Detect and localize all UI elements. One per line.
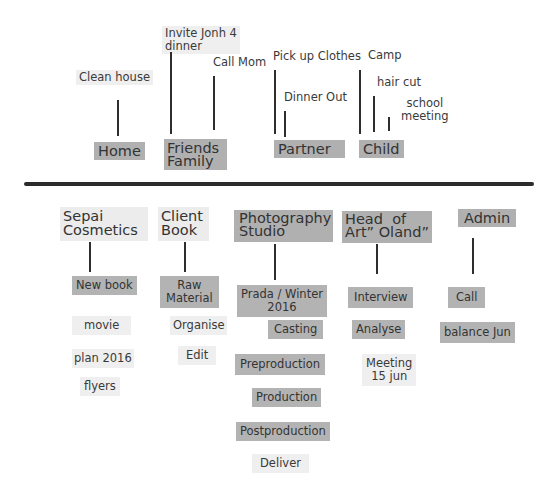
task-casting[interactable]: Casting — [268, 320, 323, 339]
task-call-mom[interactable]: Call Mom — [210, 55, 269, 70]
task-deliver[interactable]: Deliver — [252, 454, 309, 473]
task-movie[interactable]: movie — [72, 316, 131, 335]
connector-line — [373, 96, 375, 132]
task-pick-up-clothes[interactable]: Pick up Clothes — [270, 49, 364, 64]
connector-line — [284, 111, 286, 137]
category-partner[interactable]: Partner — [274, 140, 345, 158]
task-dinner-out[interactable]: Dinner Out — [281, 90, 350, 105]
task-hair-cut[interactable]: hair cut — [374, 75, 424, 90]
connector-line — [170, 52, 172, 134]
connector-line — [472, 238, 474, 274]
task-flyers[interactable]: flyers — [80, 377, 120, 396]
task-invite-jonh[interactable]: Invite Jonh 4 dinner — [162, 26, 240, 54]
connector-line — [213, 76, 215, 130]
category-home[interactable]: Home — [94, 142, 145, 160]
category-admin[interactable]: Admin — [458, 209, 516, 227]
task-preproduction[interactable]: Preproduction — [235, 354, 325, 375]
connector-line — [376, 244, 378, 274]
task-production[interactable]: Production — [252, 388, 321, 407]
section-divider — [24, 182, 534, 186]
connector-line — [117, 100, 119, 136]
task-new-book[interactable]: New book — [72, 276, 137, 295]
category-child[interactable]: Child — [359, 140, 404, 158]
category-head-of-art[interactable]: Head of Art” Oland” — [342, 211, 432, 243]
task-call[interactable]: Call — [448, 287, 485, 308]
task-postproduction[interactable]: Postproduction — [236, 422, 330, 441]
category-sepai-cosmetics[interactable]: Sepai Cosmetics — [60, 207, 148, 241]
connector-line — [388, 117, 390, 131]
category-photography-studio[interactable]: Photography Studio — [234, 210, 333, 242]
task-camp[interactable]: Camp — [365, 48, 405, 63]
task-balance-jun[interactable]: balance Jun — [440, 322, 515, 343]
task-school-meeting[interactable]: school meeting — [398, 96, 452, 124]
task-meeting-15-jun[interactable]: Meeting 15 jun — [362, 354, 416, 386]
task-raw-material[interactable]: Raw Material — [160, 276, 219, 308]
task-organise[interactable]: Organise — [170, 316, 227, 335]
connector-line — [89, 242, 91, 272]
category-friends-family[interactable]: Friends Family — [164, 139, 227, 170]
task-plan-2016[interactable]: plan 2016 — [72, 349, 134, 368]
task-analyse[interactable]: Analyse — [352, 320, 405, 339]
task-prada-winter[interactable]: Prada / Winter 2016 — [237, 285, 327, 317]
task-edit[interactable]: Edit — [178, 346, 216, 365]
category-client-book[interactable]: Client Book — [158, 207, 209, 241]
connector-line — [359, 70, 361, 134]
connector-line — [274, 70, 276, 134]
task-clean-house[interactable]: Clean house — [76, 70, 153, 85]
task-interview[interactable]: Interview — [348, 287, 413, 308]
connector-line — [274, 244, 276, 280]
connector-line — [184, 242, 186, 272]
